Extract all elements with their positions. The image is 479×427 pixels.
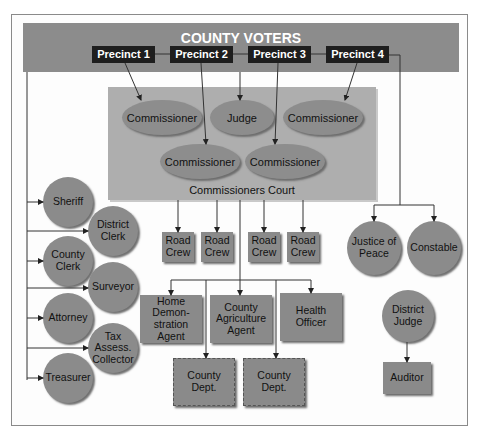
connector-lines — [0, 0, 479, 427]
